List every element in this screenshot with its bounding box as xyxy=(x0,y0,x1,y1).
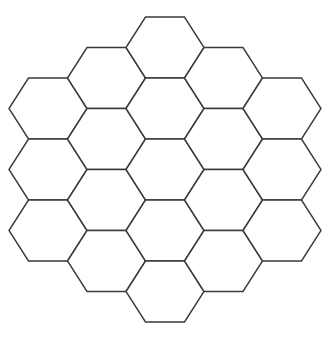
hexagon-grid-figure xyxy=(0,0,328,339)
hexagon-grid-canvas xyxy=(0,0,328,339)
